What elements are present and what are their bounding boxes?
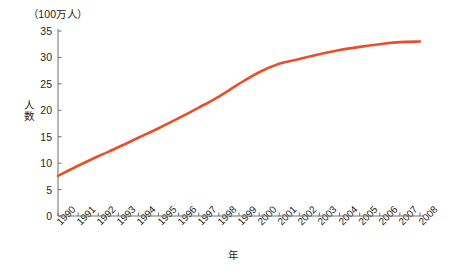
axes <box>58 29 424 216</box>
series-line <box>58 42 420 176</box>
data-series <box>58 42 420 176</box>
plot-area <box>0 0 450 276</box>
axis-ticks <box>58 31 420 216</box>
line-chart: （100万人） 05101520253035 人数 19901991199219… <box>0 0 450 276</box>
